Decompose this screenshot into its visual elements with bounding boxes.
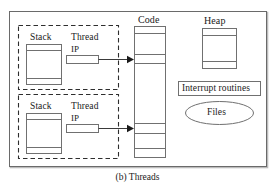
code-label: Code	[138, 15, 160, 25]
thread-2-thread-label: Thread	[71, 102, 99, 112]
thread-2-ip-box	[67, 125, 99, 133]
thread-1-thread-label: Thread	[71, 33, 99, 43]
figure-caption: (b) Threads	[0, 172, 275, 182]
threads-diagram: Stack Thread IP Stack Thread IP Code Hea…	[0, 0, 275, 192]
thread-2-ip-label: IP	[71, 114, 79, 123]
diagram-canvas	[0, 0, 275, 192]
thread-1-stack-label: Stack	[30, 33, 52, 43]
files-label: Files	[207, 108, 226, 118]
thread-2-stack-label: Stack	[30, 102, 52, 112]
heap-box	[203, 29, 237, 69]
thread-1-ip-box	[67, 56, 99, 64]
interrupt-routines-label: Interrupt routines	[182, 84, 250, 94]
code-column	[135, 27, 166, 158]
thread-1-ip-label: IP	[71, 45, 79, 54]
heap-label: Heap	[204, 16, 226, 26]
